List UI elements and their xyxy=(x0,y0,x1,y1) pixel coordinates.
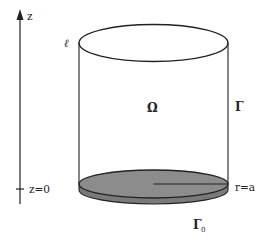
z-axis-arrow-icon xyxy=(17,9,24,20)
diagram-canvas: z z=0 ℓ Ω Γ r=a Γ 0 xyxy=(0,0,269,241)
radius-label: r=a xyxy=(235,181,255,193)
lateral-boundary-label: Γ xyxy=(235,100,244,114)
cylinder-diagram: z z=0 ℓ Ω Γ r=a Γ 0 xyxy=(0,0,269,241)
z-axis: z z=0 xyxy=(16,9,50,204)
cylinder-top-ellipse xyxy=(79,25,228,62)
bottom-boundary-subscript: 0 xyxy=(201,226,205,234)
bottom-disk xyxy=(79,170,228,204)
z-origin-label: z=0 xyxy=(29,183,50,195)
edge-curve-label: ℓ xyxy=(64,37,69,50)
z-axis-label: z xyxy=(27,10,33,22)
domain-label: Ω xyxy=(147,101,158,115)
